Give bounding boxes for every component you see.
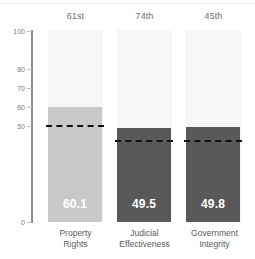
y-tick-label-50: 50 xyxy=(1,123,25,130)
y-tick-mark-0 xyxy=(27,222,32,223)
y-tick-mark-60 xyxy=(27,107,32,108)
y-tick-label-0: 0 xyxy=(1,219,25,226)
category-label-government-integrity: Government Integrity xyxy=(180,228,249,249)
reference-line-property-rights xyxy=(46,125,104,127)
y-tick-label-80: 80 xyxy=(1,66,25,73)
plot-area: 100 80 70 60 50 0 60.1 49.5 49.8 xyxy=(0,0,255,259)
bar-value-judicial-effectiveness: 49.5 xyxy=(117,197,171,211)
reference-line-judicial-effectiveness xyxy=(115,140,173,142)
y-tick-mark-50 xyxy=(27,126,32,127)
y-tick-mark-70 xyxy=(27,88,32,89)
y-tick-mark-100 xyxy=(27,31,32,32)
bar-chart: 61st 74th 45th 100 80 70 60 50 0 xyxy=(0,0,255,259)
y-tick-label-70: 70 xyxy=(1,85,25,92)
bar-value-property-rights: 60.1 xyxy=(48,197,102,211)
y-tick-label-100: 100 xyxy=(1,28,25,35)
y-tick-mark-80 xyxy=(27,69,32,70)
category-label-property-rights: Property Rights xyxy=(43,228,108,249)
category-label-judicial-effectiveness: Judicial Effectiveness xyxy=(110,228,179,249)
y-tick-label-60: 60 xyxy=(1,104,25,111)
bar-value-government-integrity: 49.8 xyxy=(186,197,240,211)
reference-line-government-integrity xyxy=(184,140,242,142)
